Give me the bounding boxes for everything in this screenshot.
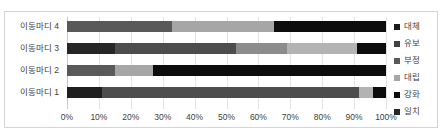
x-axis-tick-label: 10% — [90, 111, 107, 123]
chart-frame: 이동마디 4 이동마디 3 이동마디 2 이동마디 1 0%10%20%30%4… — [4, 11, 438, 128]
x-axis: 0%10%20%30%40%50%60%70%80%90%100% — [67, 111, 386, 125]
gridline — [386, 17, 387, 109]
category-axis: 이동마디 4 이동마디 3 이동마디 2 이동마디 1 — [5, 17, 63, 109]
legend-swatch-icon — [394, 24, 400, 30]
legend-item-label: 부정 — [404, 55, 420, 66]
x-axis-tick-label: 20% — [122, 111, 139, 123]
bar-segment[interactable] — [115, 43, 236, 54]
bar-segment[interactable] — [172, 21, 274, 32]
bar-segment[interactable] — [67, 65, 115, 76]
legend-swatch-icon — [394, 92, 400, 98]
legend-item[interactable]: 부정 — [394, 55, 420, 66]
legend-item-label: 유보 — [404, 38, 420, 49]
legend-swatch-icon — [394, 41, 400, 47]
legend-item[interactable]: 일치 — [394, 106, 420, 117]
bar-segment[interactable] — [373, 87, 386, 98]
stacked-bar[interactable] — [67, 87, 386, 98]
bar-segment[interactable] — [274, 21, 386, 32]
category-label: 이동마디 2 — [20, 65, 59, 76]
category-label: 이동마디 4 — [20, 21, 59, 32]
category-label: 이동마디 3 — [20, 43, 59, 54]
bar-segment[interactable] — [67, 21, 172, 32]
bar-segment[interactable] — [102, 87, 359, 98]
x-axis-tick-label: 50% — [218, 111, 235, 123]
bar-segment[interactable] — [287, 43, 357, 54]
legend-item[interactable]: 유보 — [394, 38, 420, 49]
bar-segment[interactable] — [67, 87, 102, 98]
stacked-bar[interactable] — [67, 65, 386, 76]
table-row — [67, 65, 386, 76]
bar-segment[interactable] — [67, 43, 115, 54]
stacked-bar[interactable] — [67, 43, 386, 54]
legend-item-label: 강화 — [404, 89, 420, 100]
x-axis-tick-label: 70% — [282, 111, 299, 123]
legend-swatch-icon — [394, 109, 400, 115]
table-row — [67, 21, 386, 32]
legend: 대체 유보 부정 대립 강화 일치 — [394, 17, 438, 125]
x-axis-tick-label: 90% — [346, 111, 363, 123]
legend-item-label: 대립 — [404, 72, 420, 83]
legend-swatch-icon — [394, 58, 400, 64]
legend-item-label: 일치 — [404, 106, 420, 117]
legend-item[interactable]: 대체 — [394, 21, 420, 32]
plot-area — [67, 17, 386, 109]
category-label: 이동마디 1 — [20, 87, 59, 98]
bar-segment[interactable] — [357, 43, 386, 54]
legend-item[interactable]: 대립 — [394, 72, 420, 83]
x-axis-tick-label: 30% — [154, 111, 171, 123]
x-axis-tick-label: 80% — [314, 111, 331, 123]
x-axis-tick-label: 0% — [61, 111, 73, 123]
bar-segment[interactable] — [236, 43, 287, 54]
x-axis-tick-label: 60% — [250, 111, 267, 123]
table-row — [67, 87, 386, 98]
bars-container — [67, 17, 386, 109]
bar-segment[interactable] — [359, 87, 373, 98]
bar-segment[interactable] — [153, 65, 386, 76]
table-row — [67, 43, 386, 54]
legend-item[interactable]: 강화 — [394, 89, 420, 100]
legend-item-label: 대체 — [404, 21, 420, 32]
legend-swatch-icon — [394, 75, 400, 81]
x-axis-tick-label: 40% — [186, 111, 203, 123]
stacked-bar[interactable] — [67, 21, 386, 32]
bar-segment[interactable] — [115, 65, 153, 76]
